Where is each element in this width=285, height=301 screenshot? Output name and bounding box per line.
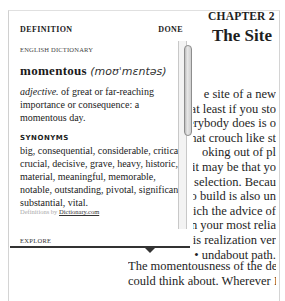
book-line: The momentousness of the deci: [128, 259, 276, 274]
headword-text: momentous: [20, 63, 87, 78]
attribution-prefix: Definitions by: [20, 208, 59, 215]
done-button[interactable]: DONE: [158, 25, 183, 34]
popup-header: DEFINITION DONE: [20, 25, 185, 37]
popup-title: DEFINITION: [20, 25, 72, 34]
scroll-thumb-icon[interactable]: [184, 45, 192, 136]
dictionary-link[interactable]: Dictionary.com: [59, 208, 99, 215]
book-line: could think about. Wherever I put: [128, 274, 276, 289]
chapter-label: CHAPTER 2: [208, 10, 275, 22]
synonyms-heading: SYNONYMS: [20, 134, 69, 142]
definition-popup: DEFINITION DONE ENGLISH DICTIONARY momen…: [8, 10, 193, 247]
pronunciation: (moʊˈmɛntəs): [90, 65, 166, 78]
explore-button[interactable]: EXPLORE: [20, 237, 51, 244]
definition-text: adjective. of great or far-reaching impo…: [20, 85, 184, 124]
popup-pointer-arrow-icon: [144, 247, 156, 253]
book-paragraph-2: The momentousness of the deci could thin…: [128, 259, 276, 288]
chapter-title: The Site: [212, 26, 272, 46]
popup-divider: [10, 246, 190, 248]
attribution: Definitions by Dictionary.com: [20, 208, 99, 215]
synonyms-list: big, consequential, considerable, critic…: [20, 144, 188, 209]
part-of-speech: adjective.: [20, 86, 59, 97]
dictionary-source: ENGLISH DICTIONARY: [20, 46, 93, 53]
headword: momentous (moʊˈmɛntəs): [20, 63, 167, 79]
